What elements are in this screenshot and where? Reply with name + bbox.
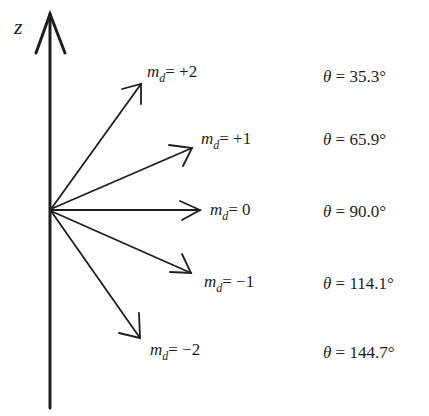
md-label-plus2: md= +2 [147,63,197,80]
md-label-minus1: md= −1 [204,273,254,290]
md-label-plus1: md= +1 [201,130,251,147]
theta-label-plus2: θ = 35.3° [323,68,386,85]
md-label-minus2: md= −2 [150,341,200,358]
theta-label-minus2: θ = 144.7° [323,344,395,361]
theta-label-plus1: θ = 65.9° [323,131,386,148]
theta-label-minus1: θ = 114.1° [323,275,394,292]
arrowhead-md-minus1 [170,254,191,273]
z-axis-label: z [14,14,23,40]
md-label-0: md= 0 [210,201,251,218]
theta-label-0: θ = 90.0° [323,203,386,220]
